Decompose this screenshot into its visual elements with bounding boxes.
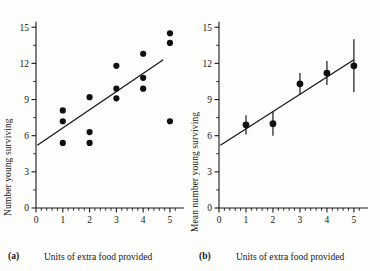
panel-b: 03691215012345 xyxy=(190,0,380,271)
y-axis-label-a: Number young surviving xyxy=(3,46,13,216)
svg-text:2: 2 xyxy=(87,215,92,225)
svg-text:3: 3 xyxy=(24,167,29,177)
svg-text:1: 1 xyxy=(60,215,65,225)
svg-text:15: 15 xyxy=(203,23,213,33)
svg-text:6: 6 xyxy=(24,131,29,141)
scatter-plot-b: 03691215012345 xyxy=(190,0,380,271)
panel-tag-b: (b) xyxy=(199,251,211,261)
x-axis-label-a: Units of extra food provided xyxy=(44,252,152,262)
panel-tag-a: (a) xyxy=(8,251,19,261)
scatter-plot-a: 03691215012345 xyxy=(0,0,190,271)
svg-text:0: 0 xyxy=(207,203,212,213)
svg-text:1: 1 xyxy=(244,215,249,225)
svg-text:5: 5 xyxy=(168,215,173,225)
svg-text:3: 3 xyxy=(298,215,303,225)
svg-text:0: 0 xyxy=(217,215,222,225)
svg-text:5: 5 xyxy=(352,215,357,225)
figure-canvas: 03691215012345 Number young surviving Un… xyxy=(0,0,380,271)
svg-text:4: 4 xyxy=(141,215,146,225)
svg-text:15: 15 xyxy=(20,23,30,33)
svg-text:3: 3 xyxy=(207,167,212,177)
svg-text:2: 2 xyxy=(271,215,276,225)
svg-text:9: 9 xyxy=(24,95,29,105)
svg-text:0: 0 xyxy=(34,215,39,225)
y-axis-label-b: Mean number young surviving xyxy=(190,36,200,232)
svg-text:12: 12 xyxy=(20,59,30,69)
svg-text:9: 9 xyxy=(207,95,212,105)
svg-text:6: 6 xyxy=(207,131,212,141)
panel-a: 03691215012345 xyxy=(0,0,190,271)
svg-text:12: 12 xyxy=(203,59,213,69)
svg-text:0: 0 xyxy=(24,203,29,213)
svg-text:3: 3 xyxy=(114,215,119,225)
svg-text:4: 4 xyxy=(325,215,330,225)
x-axis-label-b: Units of extra food provided xyxy=(236,252,344,262)
